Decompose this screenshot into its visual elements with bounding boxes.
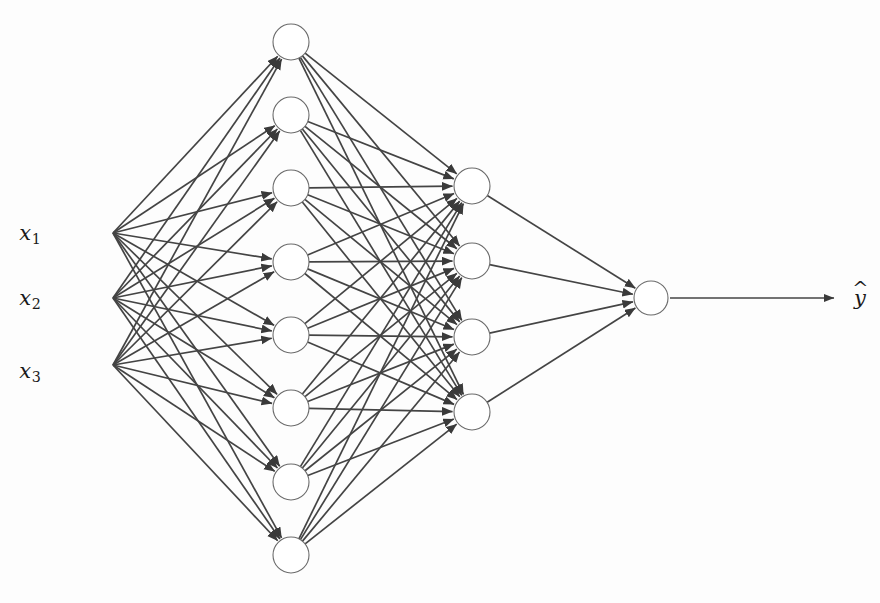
neuron-hidden2-1[interactable] bbox=[454, 168, 490, 204]
input-label-x1: x1 bbox=[19, 223, 40, 246]
edge-input-to-hidden1 bbox=[113, 298, 277, 468]
neuron-hidden1-7[interactable] bbox=[273, 464, 309, 500]
neuron-hidden1-6[interactable] bbox=[273, 390, 309, 426]
neuron-hidden1-2[interactable] bbox=[273, 97, 309, 133]
nodes-group bbox=[273, 24, 668, 573]
neuron-hidden2-4[interactable] bbox=[454, 394, 490, 430]
edge-input-to-hidden1 bbox=[113, 56, 278, 233]
edge-hidden1-to-hidden2 bbox=[309, 186, 453, 188]
edge-hidden1-to-hidden2 bbox=[305, 53, 457, 174]
edge-input-to-hidden1 bbox=[113, 193, 272, 233]
neural-network-diagram: x1x2x3 ^ y bbox=[0, 0, 880, 603]
edges-group bbox=[113, 53, 635, 544]
edge-input-to-hidden1 bbox=[113, 266, 272, 298]
input-subscript-x2: 2 bbox=[32, 296, 41, 312]
yhat-glyph: ^ y bbox=[854, 288, 866, 309]
neuron-hidden1-1[interactable] bbox=[273, 24, 309, 60]
edge-hidden2-to-output bbox=[487, 308, 635, 402]
neuron-hidden1-8[interactable] bbox=[273, 537, 309, 573]
edge-input-to-hidden1 bbox=[113, 59, 282, 365]
edge-hidden1-to-hidden2 bbox=[305, 424, 457, 544]
edge-input-to-hidden1 bbox=[113, 58, 280, 298]
edge-input-to-hidden1 bbox=[113, 365, 278, 541]
neuron-hidden1-3[interactable] bbox=[273, 170, 309, 206]
edge-hidden2-to-output bbox=[490, 302, 633, 333]
edge-hidden2-to-output bbox=[490, 265, 633, 295]
input-base-x2: x bbox=[19, 286, 31, 310]
input-base-x3: x bbox=[19, 359, 31, 383]
neuron-hidden1-4[interactable] bbox=[273, 244, 309, 280]
edge-input-to-hidden1 bbox=[113, 129, 277, 298]
network-graph bbox=[0, 0, 880, 603]
edge-hidden1-to-hidden2 bbox=[308, 122, 454, 179]
input-subscript-x3: 3 bbox=[32, 369, 41, 385]
hat-accent: ^ bbox=[852, 279, 868, 298]
input-label-x3: x3 bbox=[19, 361, 40, 384]
output-label-yhat: ^ y bbox=[854, 288, 866, 309]
edge-input-to-hidden1 bbox=[113, 298, 280, 539]
edge-hidden1-to-hidden2 bbox=[300, 57, 461, 320]
neuron-hidden2-2[interactable] bbox=[454, 243, 490, 279]
input-subscript-x1: 1 bbox=[32, 231, 41, 247]
edge-input-to-hidden1 bbox=[113, 365, 272, 403]
neuron-hidden2-3[interactable] bbox=[454, 319, 490, 355]
input-label-x2: x2 bbox=[19, 288, 40, 311]
neuron-output-1[interactable] bbox=[634, 281, 668, 315]
edge-hidden2-to-output bbox=[487, 196, 635, 289]
input-base-x1: x bbox=[19, 221, 31, 245]
neuron-hidden1-5[interactable] bbox=[273, 317, 309, 353]
edge-input-to-hidden1 bbox=[113, 298, 272, 331]
